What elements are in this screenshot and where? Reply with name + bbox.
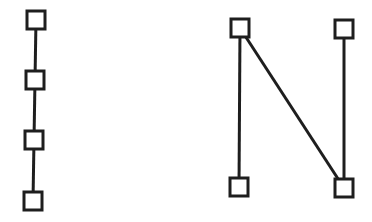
n-shaped-graph-node-d: [335, 179, 353, 197]
path-graph-node-p2: [26, 71, 44, 89]
n-shaped-graph-node-a: [231, 19, 249, 37]
n-shaped-graph-edge-a-d: [240, 28, 344, 188]
path-graph-node-p3: [25, 131, 43, 149]
nodes-layer: [24, 11, 353, 210]
path-graph-node-p1: [27, 11, 45, 29]
n-shaped-graph-node-c: [230, 178, 248, 196]
diagram-canvas: [0, 0, 372, 222]
n-shaped-graph-node-b: [335, 20, 353, 38]
n-shaped-graph-edge-a-c: [239, 28, 240, 187]
edges-layer: [33, 20, 344, 201]
path-graph-node-p4: [24, 192, 42, 210]
